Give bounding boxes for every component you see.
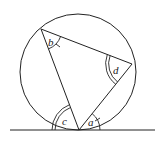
angle-label-c: c [62, 115, 67, 127]
angle-label-b: b [48, 36, 54, 48]
circle-theorem-diagram: b d c a [0, 0, 164, 143]
angle-b-tick [56, 44, 60, 47]
angle-label-a: a [88, 116, 94, 128]
triangle-side-right [79, 64, 132, 130]
angle-label-d: d [113, 64, 119, 76]
circle [20, 14, 136, 130]
triangle-side-top [41, 29, 132, 64]
